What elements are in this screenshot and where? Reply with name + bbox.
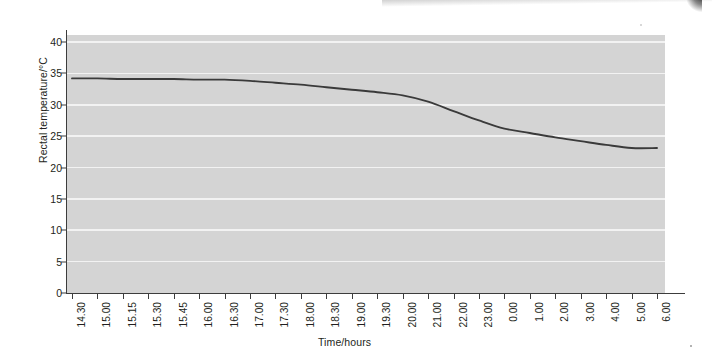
x-axis-tick (428, 294, 429, 299)
x-axis-tick-label: 3.00 (585, 302, 596, 322)
x-axis-tick-label: 18.00 (305, 302, 316, 328)
x-axis-tick-label: 23.00 (483, 302, 494, 328)
x-axis-tick-label: 22.00 (458, 302, 469, 328)
x-axis-tick (97, 294, 98, 299)
x-axis-tick (632, 294, 633, 299)
x-axis-tick-label: 2.00 (559, 302, 570, 322)
x-axis-tick (148, 294, 149, 299)
x-axis-tick-label: 19.30 (381, 302, 392, 328)
temperature-curve (67, 35, 665, 293)
x-axis-tick (352, 294, 353, 299)
x-axis-tick (72, 294, 73, 299)
x-axis-tick (199, 294, 200, 299)
x-axis-tick-label: 17.00 (254, 302, 265, 328)
x-axis-tick (581, 294, 582, 299)
x-axis-tick-label: 15.45 (178, 302, 189, 328)
temperature-curve-path (72, 78, 657, 148)
y-axis-tick-label: 20 (38, 162, 62, 174)
y-axis-tick-label: 30 (38, 99, 62, 111)
x-axis-tick (275, 294, 276, 299)
x-axis-tick-label: 1.00 (534, 302, 545, 322)
x-axis-tick (250, 294, 251, 299)
x-axis-tick (555, 294, 556, 299)
x-axis-tick-label: 14.30 (76, 302, 87, 328)
x-axis-tick-label: 4.00 (610, 302, 621, 322)
y-axis-tick-label: 40 (38, 36, 62, 48)
y-axis-tick-label: 0 (38, 287, 62, 299)
x-axis-tick-label: 6.00 (661, 302, 672, 322)
x-axis-tick (606, 294, 607, 299)
y-axis-tick-label: 10 (38, 224, 62, 236)
x-axis-tick (174, 294, 175, 299)
x-axis-tick (301, 294, 302, 299)
y-axis-tick-label: 5 (38, 256, 62, 268)
x-axis-tick-label: 18.30 (330, 302, 341, 328)
x-axis-tick-label: 20.00 (407, 302, 418, 328)
x-axis-tick-label: 16.30 (229, 302, 240, 328)
x-axis-tick-label: 15.00 (101, 302, 112, 328)
x-axis-tick (225, 294, 226, 299)
x-axis-tick-label: 19.00 (356, 302, 367, 328)
x-axis-tick-label: 16.00 (203, 302, 214, 328)
y-axis-tick-label: 15 (38, 193, 62, 205)
x-axis-tick (504, 294, 505, 299)
x-axis-tick (377, 294, 378, 299)
x-axis-tick (123, 294, 124, 299)
x-axis-tick-label: 5.00 (636, 302, 647, 322)
y-axis-tick-label: 25 (38, 130, 62, 142)
plot-area (67, 35, 665, 293)
x-axis-tick-label: 17.30 (279, 302, 290, 328)
x-axis-tick (657, 294, 658, 299)
x-axis-tick (326, 294, 327, 299)
x-axis-tick (403, 294, 404, 299)
x-axis-tick (530, 294, 531, 299)
x-axis-line (66, 293, 685, 294)
x-axis-tick-label: 15.15 (127, 302, 138, 328)
x-axis-tick-label: 21.00 (432, 302, 443, 328)
y-axis-line (66, 30, 67, 294)
x-axis-tick-label: 0.00 (508, 302, 519, 322)
x-axis-tick-label: 15.30 (152, 302, 163, 328)
x-axis-tick (479, 294, 480, 299)
x-axis-tick (454, 294, 455, 299)
y-axis-tick-label: 35 (38, 67, 62, 79)
